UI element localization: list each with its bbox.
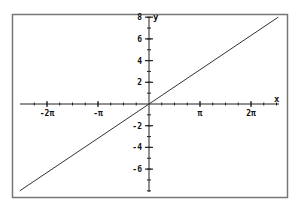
plot-frame xyxy=(13,15,288,198)
y-tick-label: 8 xyxy=(137,13,142,22)
y-tick-label: -6 xyxy=(132,165,142,174)
x-axis-label: x xyxy=(274,94,280,104)
y-axis-label: y xyxy=(153,12,159,22)
y-tick-label: -4 xyxy=(132,143,142,152)
x-tick-label: -2π xyxy=(40,109,55,118)
y-tick-label: -2 xyxy=(132,122,142,131)
x-tick-label: -π xyxy=(93,109,103,118)
x-tick-label: π xyxy=(198,109,203,118)
x-tick-label: 2π xyxy=(246,109,256,118)
y-tick-label: 6 xyxy=(137,35,142,44)
y-tick-label: 2 xyxy=(137,78,142,87)
y-tick-label: 4 xyxy=(137,57,142,66)
function-plot: -2π-ππ2π8642-2-4-6 x y xyxy=(0,0,298,206)
